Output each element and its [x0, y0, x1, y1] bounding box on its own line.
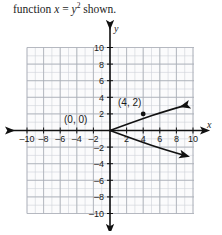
x-tick-label-10: 10	[188, 134, 198, 144]
point-label-4-2: (4, 2)	[118, 97, 141, 108]
prompt-prefix: function	[13, 3, 54, 15]
x-tick-label--10: –10	[19, 134, 34, 144]
prompt-suffix: shown.	[80, 3, 116, 15]
y-tick-label--8: –8	[94, 192, 104, 202]
y-tick-label-8: 8	[99, 60, 104, 70]
y-tick-label--10: –10	[89, 209, 104, 219]
y-tick-label--6: –6	[94, 176, 104, 186]
y-tick-label--2: –2	[94, 143, 104, 153]
x-tick-label-6: 6	[157, 134, 162, 144]
y-tick-label-10: 10	[94, 43, 104, 53]
y-axis-label: y	[113, 23, 119, 34]
x-tick-label--4: –4	[72, 134, 82, 144]
cut-off-footer-text	[22, 228, 202, 235]
question-prompt: function x = y2 shown.	[13, 2, 116, 16]
x-tick-label-8: 8	[174, 134, 179, 144]
x-axis-label: x	[206, 119, 212, 130]
graph-svg: –10 –8 –6 –4 –2 2 4 6 8 10 10 8 6 4 2 –2…	[0, 16, 222, 231]
y-tick-label-2: 2	[99, 109, 104, 119]
origin-label: (0, 0)	[64, 114, 87, 125]
y-tick-label--4: –4	[94, 159, 104, 169]
x-tick-label--6: –6	[55, 134, 65, 144]
plotted-point-4-2	[141, 112, 146, 117]
x-tick-label--8: –8	[39, 134, 49, 144]
coordinate-graph: –10 –8 –6 –4 –2 2 4 6 8 10 10 8 6 4 2 –2…	[0, 16, 222, 231]
y-tick-label-6: 6	[99, 76, 104, 86]
y-tick-label-4: 4	[99, 93, 104, 103]
prompt-equals: =	[59, 3, 71, 15]
